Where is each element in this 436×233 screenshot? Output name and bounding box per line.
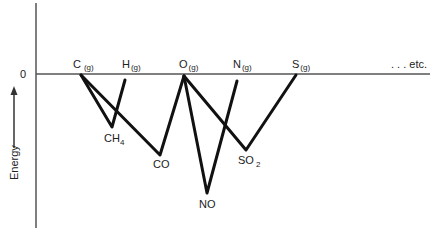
compound-label-co: CO — [153, 158, 170, 170]
zero-label: 0 — [20, 68, 26, 80]
energy-arrow-icon — [11, 86, 18, 148]
element-label-c: C(g) — [73, 58, 94, 72]
continuation-label: . . . etc. — [391, 58, 427, 70]
element-label-n: N(g) — [233, 58, 252, 72]
co-formation-lines — [81, 75, 184, 155]
energy-diagram: 0 Energy C(g) H(g) O(g) N(g) S(g) . . . … — [0, 0, 436, 233]
compound-label-so2: SO2 — [238, 154, 261, 169]
so2-formation-lines — [184, 75, 296, 150]
energy-axis-label: Energy — [8, 145, 20, 180]
compound-label-no: NO — [199, 198, 216, 210]
compound-label-ch4: CH4 — [104, 132, 125, 147]
element-label-s: S(g) — [292, 58, 310, 72]
no-formation-lines — [184, 76, 237, 193]
element-label-o: O(g) — [179, 58, 199, 72]
element-label-h: H(g) — [122, 58, 141, 72]
